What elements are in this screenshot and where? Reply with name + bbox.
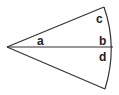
sector-arc	[104, 7, 111, 89]
upper-radius	[7, 7, 104, 47]
label-d: d	[99, 50, 106, 64]
lower-radius	[7, 47, 105, 89]
label-a: a	[37, 34, 44, 48]
label-c: c	[96, 12, 103, 26]
sector-diagram: a b c d	[0, 0, 119, 95]
label-b: b	[99, 34, 106, 48]
